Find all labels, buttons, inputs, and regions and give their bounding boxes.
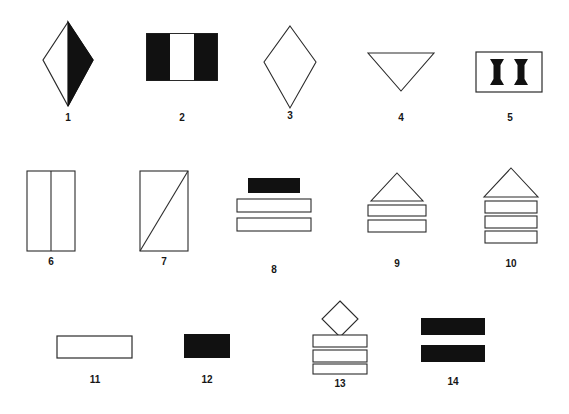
figure-label-13: 13 [306, 378, 374, 390]
figure-label-8: 8 [234, 264, 314, 276]
figure-item-6: 6 [24, 168, 78, 274]
figure-item-10: 10 [474, 164, 548, 274]
figure-item-14: 14 [416, 314, 490, 394]
figure-label-4: 4 [366, 112, 436, 124]
figure-label-9: 9 [360, 258, 434, 270]
figure-plate: 1 2 3 4 5 [0, 0, 569, 414]
figure-7-graphic [137, 168, 191, 254]
figure-item-13: 13 [306, 298, 374, 394]
figure-label-7: 7 [137, 256, 191, 268]
figure-item-7: 7 [137, 168, 191, 274]
figure-2-graphic [146, 32, 218, 84]
figure-11-graphic [54, 332, 136, 362]
figure-14-graphic [416, 314, 490, 370]
figure-item-8: 8 [234, 176, 314, 274]
figure-1-graphic [33, 20, 103, 108]
figure-label-11: 11 [54, 374, 136, 386]
figure-5-graphic [475, 48, 545, 96]
figure-label-3: 3 [260, 110, 320, 122]
figure-9-graphic [360, 170, 434, 238]
figure-10-graphic [474, 164, 548, 246]
figure-label-1: 1 [33, 112, 103, 124]
figure-item-4: 4 [366, 48, 436, 124]
figure-3-graphic [260, 22, 320, 112]
figure-item-12: 12 [180, 330, 234, 394]
figure-label-2: 2 [146, 112, 218, 124]
figure-12-graphic [180, 330, 234, 362]
figure-item-9: 9 [360, 170, 434, 274]
figure-6-graphic [24, 168, 78, 254]
figure-label-14: 14 [416, 376, 490, 388]
figure-label-5: 5 [475, 112, 545, 124]
figure-item-11: 11 [54, 332, 136, 394]
figure-item-1: 1 [33, 20, 103, 124]
figure-4-graphic [366, 48, 436, 96]
figure-label-6: 6 [24, 256, 78, 268]
figure-item-3: 3 [260, 22, 320, 124]
figure-label-12: 12 [180, 374, 234, 386]
figure-label-10: 10 [474, 258, 548, 270]
figure-13-graphic [306, 298, 374, 376]
figure-item-2: 2 [146, 32, 218, 124]
figure-item-5: 5 [475, 48, 545, 124]
figure-8-graphic [234, 176, 314, 238]
